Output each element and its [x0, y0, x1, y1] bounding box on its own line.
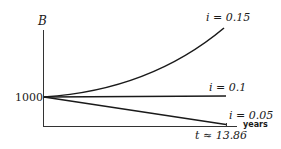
series-line-i-0.1	[44, 96, 226, 97]
t-annotation: t ≈ 13.86	[195, 130, 247, 141]
x-axis-label: years	[243, 121, 268, 129]
series-line-i-0.15	[44, 28, 224, 97]
series-label-i-0.15: i = 0.15	[206, 12, 250, 23]
y-tick-1000: 1000	[15, 92, 43, 103]
y-axis-label: B	[38, 15, 47, 27]
series-line-i-0.05	[44, 97, 226, 125]
series-label-i-0.1: i = 0.1	[209, 82, 246, 93]
